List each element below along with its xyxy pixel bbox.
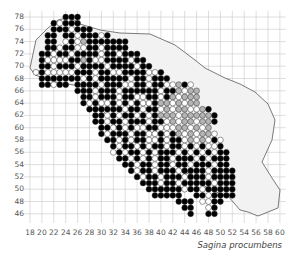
y-tick-label: 54 [4, 161, 24, 169]
y-tick-label: 58 [4, 136, 24, 144]
x-tick-label: 60 [273, 228, 287, 237]
y-tick-label: 52 [4, 173, 24, 181]
y-tick-label: 48 [4, 198, 24, 206]
y-tick-label: 62 [4, 111, 24, 119]
y-tick-label: 72 [4, 50, 24, 58]
distribution-map [0, 0, 294, 256]
y-tick-label: 78 [4, 13, 24, 21]
y-tick-label: 66 [4, 87, 24, 95]
y-tick-label: 60 [4, 124, 24, 132]
y-tick-label: 74 [4, 38, 24, 46]
y-tick-label: 70 [4, 62, 24, 70]
y-tick-label: 56 [4, 148, 24, 156]
species-caption: Sagina procumbens [197, 240, 282, 250]
y-tick-label: 68 [4, 75, 24, 83]
y-tick-label: 76 [4, 25, 24, 33]
y-tick-label: 46 [4, 210, 24, 218]
y-tick-label: 50 [4, 185, 24, 193]
y-tick-label: 64 [4, 99, 24, 107]
